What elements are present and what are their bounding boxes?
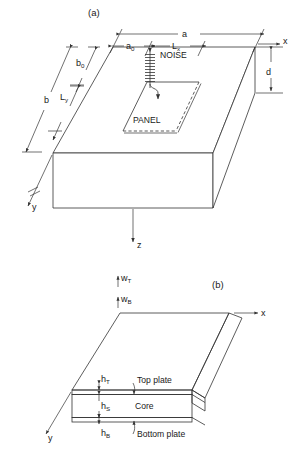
bottom-plate-leader (133, 421, 135, 434)
displacement-wB-label: wB (120, 294, 132, 305)
dimension-Ly-label: Ly (60, 92, 69, 103)
dimension-Lx-label: Lx (172, 41, 181, 52)
core-label: Core (135, 401, 154, 411)
axis-y-b-label: y (48, 433, 53, 443)
enclosure-front-face (53, 153, 213, 208)
technical-figure: (a) PANEL NOISE (0, 0, 297, 455)
figure-b-caption: (b) (212, 279, 224, 290)
axis-z-a-label: z (137, 240, 142, 250)
noise-label: NOISE (160, 50, 187, 60)
dimension-hB-label: hB (101, 428, 110, 439)
dimension-a-label: a (182, 29, 187, 39)
axis-y-b (46, 392, 71, 434)
axis-y-a-label: y (32, 202, 37, 212)
core-front (72, 395, 192, 418)
top-plate-label: Top plate (137, 375, 172, 385)
dimension-a0-label: a0 (126, 41, 135, 52)
figure-b: (b) wT wB hT hS (46, 273, 266, 443)
panel-label: PANEL (133, 115, 161, 125)
axis-x-a-label: x (283, 36, 288, 46)
core-right-edge-lower (192, 390, 205, 411)
top-plate-front (72, 390, 192, 395)
axis-y-a (28, 155, 52, 206)
dimension-d-label: d (266, 67, 271, 77)
dimension-b-label: b (44, 95, 49, 105)
figure-a-caption: (a) (88, 7, 100, 18)
dimension-b0-label: b0 (76, 58, 85, 69)
axis-x-b-label: x (261, 308, 266, 318)
bottom-plate-label: Bottom plate (137, 429, 185, 439)
dimension-hS-label: hS (101, 401, 110, 412)
bottom-plate-front (72, 418, 192, 423)
figure-a: (a) PANEL NOISE (22, 7, 288, 250)
displacement-wT-label: wT (120, 273, 132, 284)
